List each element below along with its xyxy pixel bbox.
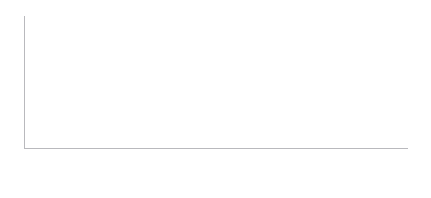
chart-container bbox=[0, 0, 431, 198]
chart-title-strip bbox=[6, 0, 306, 9]
plot-area bbox=[24, 16, 408, 148]
x-axis-line bbox=[24, 148, 408, 149]
